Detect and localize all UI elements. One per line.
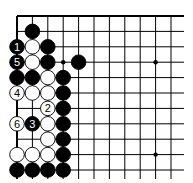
black-stone-disc (71, 55, 86, 70)
white-stone-4: 4 (10, 86, 25, 101)
black-stone (41, 55, 56, 70)
white-stone-disc (41, 70, 56, 85)
white-stone-2: 2 (41, 101, 56, 116)
white-stone (25, 55, 40, 70)
white-stone-disc (25, 55, 40, 70)
go-board: 154263 (0, 0, 193, 183)
black-stone (56, 70, 71, 85)
black-stone (41, 163, 56, 178)
white-stone-disc (41, 147, 56, 162)
black-stone (41, 40, 56, 55)
black-stone (10, 163, 25, 178)
white-stone-disc (41, 117, 56, 132)
black-stone (56, 132, 71, 147)
black-stone-disc (56, 101, 71, 116)
black-stone-disc (56, 163, 71, 178)
dot-marker (61, 60, 65, 64)
black-stone-1: 1 (10, 40, 25, 55)
black-stone (56, 163, 71, 178)
star-point (153, 152, 157, 156)
black-stone-disc (25, 24, 40, 39)
white-stone (25, 86, 40, 101)
white-stone-disc (41, 132, 56, 147)
move-number-label: 1 (14, 41, 20, 53)
move-number-label: 6 (14, 118, 20, 130)
white-stone (25, 40, 40, 55)
black-stone-disc (10, 163, 25, 178)
white-stone (10, 147, 25, 162)
move-number-label: 4 (14, 87, 20, 99)
move-number-label: 5 (14, 56, 20, 68)
black-stone-disc (41, 40, 56, 55)
white-stone-disc (41, 86, 56, 101)
white-stone-disc (10, 147, 25, 162)
black-stone (56, 86, 71, 101)
black-stone-disc (56, 117, 71, 132)
black-stone-disc (10, 70, 25, 85)
white-stone (41, 147, 56, 162)
black-stone-disc (41, 55, 56, 70)
black-stone-5: 5 (10, 55, 25, 70)
white-stone-6: 6 (10, 117, 25, 132)
black-stone-disc (25, 70, 40, 85)
black-stone (56, 117, 71, 132)
black-stone (71, 55, 86, 70)
white-stone (41, 70, 56, 85)
black-stone (25, 70, 40, 85)
black-stone (25, 163, 40, 178)
black-stone (56, 101, 71, 116)
black-stone (56, 147, 71, 162)
black-stone-disc (25, 163, 40, 178)
markers (61, 60, 65, 64)
black-stone-disc (56, 147, 71, 162)
black-stone-disc (56, 70, 71, 85)
white-stone-disc (25, 86, 40, 101)
white-stone (41, 117, 56, 132)
black-stone-disc (56, 132, 71, 147)
move-number-label: 3 (29, 118, 35, 130)
black-stone-disc (41, 163, 56, 178)
white-stone-disc (25, 40, 40, 55)
white-stone (41, 132, 56, 147)
black-stone-3: 3 (25, 117, 40, 132)
black-stone-disc (56, 86, 71, 101)
black-stone (10, 70, 25, 85)
white-stone (25, 147, 40, 162)
black-stone (25, 24, 40, 39)
white-stone (41, 86, 56, 101)
white-stone-disc (25, 147, 40, 162)
star-point (153, 60, 157, 64)
move-number-label: 2 (45, 102, 51, 114)
